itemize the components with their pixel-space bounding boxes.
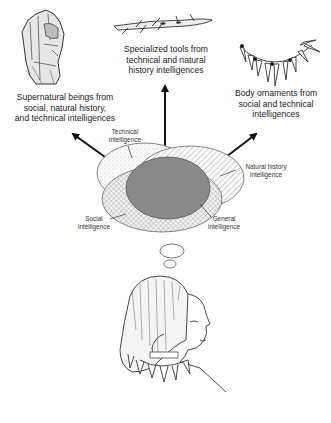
general-intelligence-ellipse	[126, 157, 210, 219]
supernatural-line2: social, natural history,	[4, 103, 126, 114]
thought-bubble-large	[160, 244, 184, 258]
figurine-icon	[22, 10, 64, 84]
ornaments-line1: Body ornaments from	[226, 88, 326, 99]
thought-bubble-small	[164, 260, 176, 268]
natural-history-line2: intelligence	[234, 171, 298, 179]
harpoon-icon	[114, 14, 212, 34]
general-intelligence-label: General intelligence	[200, 215, 248, 231]
social-intelligence-label: Social intelligence	[70, 215, 118, 231]
social-line2: intelligence	[70, 223, 118, 231]
head-illustration	[120, 276, 226, 392]
technical-line1: Technical	[100, 128, 150, 136]
necklace-icon	[240, 40, 320, 86]
social-line1: Social	[70, 215, 118, 223]
body-ornaments-label: Body ornaments from social and technical…	[226, 88, 326, 120]
natural-history-intelligence-label: Natural history intelligence	[234, 163, 298, 179]
arrow-to-ornaments	[226, 134, 256, 157]
tools-line3: history intelligences	[115, 65, 217, 76]
general-line1: General	[200, 215, 248, 223]
natural-history-line1: Natural history	[234, 163, 298, 171]
supernatural-beings-label: Supernatural beings from social, natural…	[4, 92, 126, 124]
tools-line2: technical and natural	[115, 55, 217, 66]
supernatural-line3: and technical intelligences	[4, 113, 126, 124]
specialized-tools-label: Specialized tools from technical and nat…	[115, 44, 217, 76]
technical-line2: intelligence	[100, 136, 150, 144]
tools-line1: Specialized tools from	[115, 44, 217, 55]
technical-intelligence-label: Technical intelligence	[100, 128, 150, 144]
ornaments-line2: social and technical	[226, 99, 326, 110]
supernatural-line1: Supernatural beings from	[4, 92, 126, 103]
general-line2: intelligence	[200, 223, 248, 231]
ornaments-line3: intelligences	[226, 109, 326, 120]
